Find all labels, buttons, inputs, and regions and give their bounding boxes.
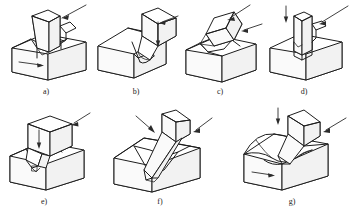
panel-e-drawing <box>2 110 92 196</box>
panel-e: e) <box>2 110 92 196</box>
panel-f-caption: f) <box>148 198 172 206</box>
panel-g-caption: g) <box>280 198 304 206</box>
panel-c: c) <box>178 2 264 86</box>
panel-a-drawing <box>4 2 90 86</box>
panel-b: b) <box>92 2 178 86</box>
panel-g: g) <box>232 106 350 196</box>
panel-f: f) <box>104 108 216 196</box>
panel-d-caption: d) <box>292 88 316 96</box>
panel-e-caption: e) <box>32 198 56 206</box>
panel-d: d) <box>264 2 350 86</box>
panel-b-drawing <box>92 2 178 86</box>
panel-a-caption: a) <box>34 88 58 96</box>
panel-c-caption: c) <box>208 88 232 96</box>
panel-b-caption: b) <box>124 88 148 96</box>
panel-a: a) <box>4 2 90 86</box>
figure-cutting-schemes: a) b) <box>0 0 352 216</box>
panel-d-drawing <box>264 2 350 86</box>
panel-f-drawing <box>104 108 216 196</box>
panel-g-drawing <box>232 106 350 196</box>
panel-c-drawing <box>178 2 264 86</box>
